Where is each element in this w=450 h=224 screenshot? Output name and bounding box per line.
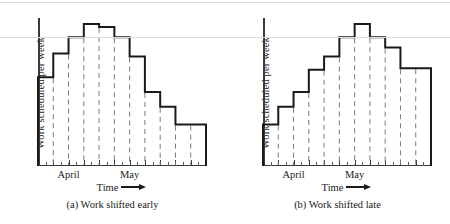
time-arrow-icon: [121, 184, 147, 190]
time-axis-caption-b: Time: [263, 182, 431, 193]
month-label-april: April: [57, 168, 79, 182]
panel-a: Work scheduled per week AprilMay Time (a…: [0, 0, 225, 224]
step-histogram-b: [263, 18, 431, 166]
month-labels-a: AprilMay: [38, 168, 206, 182]
figure-caption-b: (b) Work shifted late: [225, 199, 450, 210]
time-label: Time: [322, 182, 344, 193]
step-outline: [263, 24, 431, 166]
time-axis-caption-a: Time: [38, 182, 206, 193]
step-histogram-a: [38, 18, 206, 166]
step-outline: [38, 24, 206, 166]
figure-caption-a: (a) Work shifted early: [0, 199, 225, 210]
figure-sheet: Work scheduled per week AprilMay Time (a…: [0, 0, 450, 224]
time-arrow-icon: [346, 184, 372, 190]
plot-area-a: [38, 18, 206, 166]
month-label-april: April: [282, 168, 304, 182]
time-label: Time: [97, 182, 119, 193]
month-labels-b: AprilMay: [263, 168, 431, 182]
plot-area-b: [263, 18, 431, 166]
month-label-may: May: [345, 168, 364, 182]
month-label-may: May: [120, 168, 139, 182]
panel-b: Work scheduled per week AprilMay Time (b…: [225, 0, 450, 224]
